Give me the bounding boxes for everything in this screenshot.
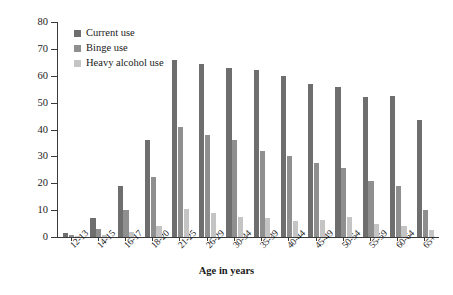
bar [145,140,150,237]
bar [254,70,259,237]
legend-label: Current use [86,28,135,39]
bar [390,96,395,237]
bar [102,235,107,237]
y-tick-label: 60 [22,71,48,82]
bar [226,68,231,237]
bar [205,135,210,237]
bar-group [390,22,407,237]
bar [287,156,292,237]
bar-group [199,22,216,237]
x-axis-title: Age in years [0,265,453,276]
bar [363,97,368,237]
bar [374,224,379,237]
bar-group [308,22,325,237]
legend-label: Binge use [86,43,128,54]
bar [281,76,286,237]
alcohol-use-by-age-bar-chart: Percentage Age in years 0102030405060708… [0,0,453,295]
bar [341,168,346,237]
bar [314,163,319,237]
bar [123,210,128,237]
bar [232,140,237,237]
y-tick-label: 0 [22,232,48,243]
bar [69,235,74,237]
bar [429,230,434,237]
bar [265,218,270,237]
bar [417,120,422,237]
legend-item: Current use [74,26,164,40]
bar [238,217,243,237]
bar [199,64,204,237]
bar [118,186,123,237]
bar [347,217,352,237]
y-tick-label: 70 [22,44,48,55]
bar-group [226,22,243,237]
bar [260,151,265,237]
bar [368,181,373,237]
legend-swatch-icon [74,30,81,37]
y-tick-label: 80 [22,17,48,28]
bar [293,221,298,237]
legend-swatch-icon [74,60,81,67]
bar-group [254,22,271,237]
bar [75,236,80,237]
legend-item: Heavy alcohol use [74,56,164,70]
bar [308,84,313,237]
legend-swatch-icon [74,45,81,52]
bar-group [172,22,189,237]
bar-group [335,22,352,237]
legend-item: Binge use [74,41,164,55]
bar [151,177,156,237]
bar [184,209,189,237]
bar [96,229,101,237]
bar [129,232,134,237]
bar [401,226,406,237]
bar [178,127,183,237]
legend-label: Heavy alcohol use [86,58,164,69]
bar-group [363,22,380,237]
bar [423,210,428,237]
bar [335,87,340,238]
chart-legend: Current useBinge useHeavy alcohol use [74,26,164,71]
y-tick-label: 20 [22,178,48,189]
bar [211,213,216,237]
bar [156,226,161,237]
bar [396,186,401,237]
bar-group [281,22,298,237]
bar [90,218,95,237]
bar [320,220,325,237]
bar-group [417,22,434,237]
y-tick-label: 30 [22,151,48,162]
y-tick-label: 10 [22,205,48,216]
bar [172,60,177,237]
y-tick-label: 50 [22,98,48,109]
y-tick-mark [51,237,57,238]
bar [63,233,68,237]
y-tick-label: 40 [22,125,48,136]
